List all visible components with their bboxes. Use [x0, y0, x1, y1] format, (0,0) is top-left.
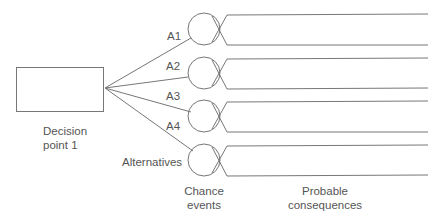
consequence-branch-3b	[212, 103, 428, 132]
consequence-branch-3a	[212, 101, 428, 129]
probable-consequences-label-line2: consequences	[288, 199, 362, 211]
consequence-branch-4a	[212, 145, 428, 173]
chance-events-label-line1: Chance	[184, 185, 224, 197]
alternative-label-a1: A1	[167, 30, 181, 42]
chance-node-4	[188, 144, 220, 176]
chance-events-label-line2: events	[187, 199, 221, 211]
alternatives-label: Alternatives	[122, 156, 182, 168]
consequence-branch-1b	[212, 16, 428, 45]
consequence-branch-2b	[212, 60, 428, 89]
decision-tree-diagram: A1 A2 A3 A4 Alternatives Decision point …	[0, 0, 439, 221]
alternative-branch-a2	[105, 77, 188, 88]
probable-consequences-label-line1: Probable	[302, 185, 348, 197]
decision-point-label-line2: point 1	[43, 139, 78, 151]
decision-point-box	[17, 68, 104, 112]
chance-node-1	[188, 13, 220, 45]
chance-node-2	[188, 57, 220, 89]
chance-node-3	[188, 100, 220, 132]
consequence-branch-4b	[212, 147, 428, 176]
alternative-label-a3: A3	[166, 90, 180, 102]
consequence-branch-1a	[212, 14, 428, 42]
decision-point-label-line1: Decision	[43, 125, 87, 137]
alternative-label-a2: A2	[166, 60, 180, 72]
consequence-branch-2a	[212, 58, 428, 86]
alternative-label-a4: A4	[166, 120, 181, 132]
